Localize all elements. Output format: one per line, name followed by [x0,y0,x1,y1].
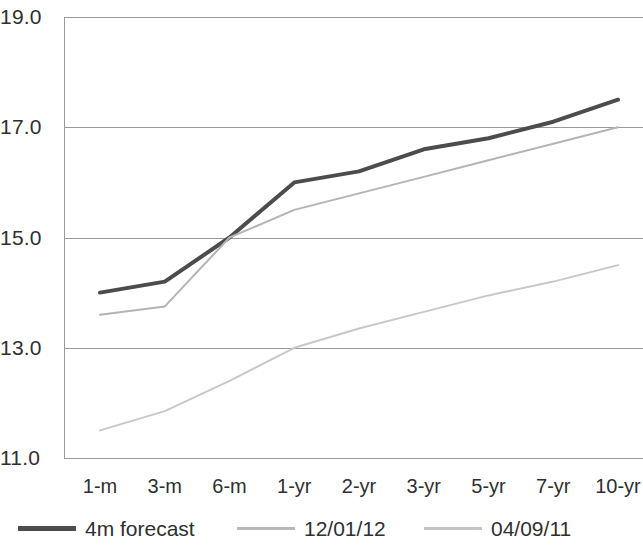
line-chart: 19.017.015.013.011.0 1-m3-m6-m1-yr2-yr3-… [0,0,643,550]
legend-line-swatch-icon [237,527,295,530]
y-axis-tick-label: 13.0 [0,337,54,358]
plot-area [64,17,643,458]
series-line [100,127,618,314]
x-axis-tick-label: 2-yr [324,476,394,496]
y-axis-tick-label: 11.0 [0,447,54,468]
legend-item[interactable]: 04/09/11 [424,513,571,543]
series-line [100,100,618,293]
x-axis-tick-label: 1-m [65,476,135,496]
x-axis-tick-label: 5-yr [454,476,524,496]
legend-item[interactable]: 4m forecast [18,513,195,543]
legend-line-swatch-icon [18,526,76,531]
x-axis-tick-label: 3-m [130,476,200,496]
y-axis-tick-label: 17.0 [0,116,54,137]
legend-line-swatch-icon [424,527,482,530]
chart-legend: 4m forecast12/01/1204/09/11 [0,513,643,547]
grid-line [64,458,643,459]
legend-label: 12/01/12 [304,518,386,539]
x-axis-tick-label: 1-yr [259,476,329,496]
y-axis-tick-label: 19.0 [0,6,54,27]
x-axis-tick-label: 6-m [195,476,265,496]
x-axis-tick-label: 10-yr [583,476,643,496]
legend-label: 4m forecast [85,518,195,539]
series-line [100,265,618,430]
x-axis-tick-label: 3-yr [389,476,459,496]
x-axis-tick-label: 7-yr [518,476,588,496]
y-axis-tick-label: 15.0 [0,227,54,248]
legend-label: 04/09/11 [491,518,571,539]
legend-item[interactable]: 12/01/12 [237,513,386,543]
series-layer [64,17,643,458]
